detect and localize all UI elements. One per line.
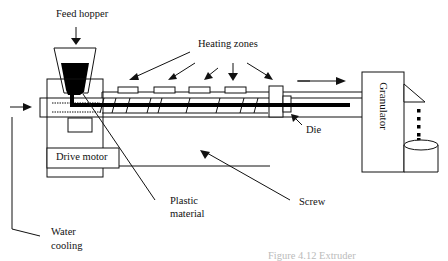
barrel (40, 98, 392, 117)
screw-label: Screw (299, 196, 325, 208)
water-cooling-leader (12, 117, 40, 236)
figure-caption: Figure 4.12 Extruder (268, 250, 356, 261)
heater-4 (225, 87, 246, 93)
plastic-material-label-2: material (170, 208, 204, 220)
die-label: Die (306, 124, 321, 136)
plastic-path (72, 93, 350, 105)
plastic-material-label-1: Plastic (170, 195, 198, 207)
water-cooling-label-2: cooling (51, 240, 83, 252)
heater-1 (118, 87, 138, 93)
feed-hopper-label: Feed hopper (56, 8, 108, 20)
granulator-label: Granulator (378, 82, 390, 130)
heater-5-die-housing (269, 86, 283, 117)
heater-3 (189, 87, 210, 93)
heating-zones-label: Heating zones (198, 38, 258, 50)
heating-zone-arrows (129, 52, 273, 81)
heater-2 (154, 87, 175, 93)
pellet-stream (417, 109, 421, 142)
water-cooling-label-1: Water (51, 226, 76, 238)
granulator-chute (404, 84, 425, 102)
drive-motor-label: Drive motor (56, 151, 108, 163)
